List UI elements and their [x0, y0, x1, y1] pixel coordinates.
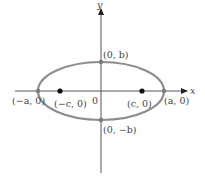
focus-right-label: (c, 0) [127, 98, 152, 109]
vertex-left-point [36, 89, 40, 93]
covertex-bottom-label: (0, −b) [103, 124, 137, 135]
covertex-bottom-point [99, 118, 103, 122]
focus-right-point [139, 88, 144, 93]
focus-left-label: (−c, 0) [54, 98, 87, 109]
focus-left-point [57, 88, 62, 93]
vertex-right-point [162, 89, 166, 93]
y-axis-label: y [96, 0, 103, 10]
vertex-left-label: (−a, 0) [12, 95, 45, 106]
ellipse-diagram: y x 0 (0, b) (0, −b) (−a, 0) (a, 0) (−c,… [0, 0, 205, 188]
covertex-top-label: (0, b) [103, 49, 129, 60]
x-axis-label: x [190, 85, 196, 96]
vertex-right-label: (a, 0) [164, 95, 189, 106]
covertex-top-point [99, 60, 103, 64]
origin-label: 0 [92, 95, 98, 106]
